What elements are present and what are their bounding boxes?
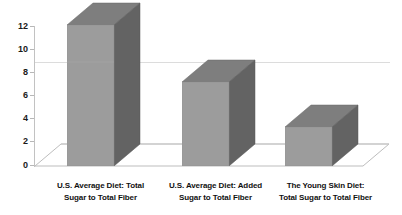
bar-column-1-geometry bbox=[67, 0, 141, 166]
category-label-3-line2: Total Sugar to Total Fiber bbox=[253, 192, 398, 204]
y-axis-label-6: 6 bbox=[6, 91, 28, 100]
category-label-3: The Young Skin Diet: Total Sugar to Tota… bbox=[253, 180, 398, 203]
y-axis-label-0: 0 bbox=[6, 161, 28, 170]
bar-column-1 bbox=[67, 0, 114, 166]
x-axis-category-labels: U.S. Average Diet: Total Sugar to Total … bbox=[0, 180, 402, 215]
y-axis-label-8: 8 bbox=[6, 68, 28, 77]
y-axis-label-10: 10 bbox=[6, 45, 28, 54]
bar-column-3-geometry bbox=[285, 0, 359, 166]
bar-chart: 12 10 8 6 4 2 0 bbox=[0, 0, 402, 215]
bar-column-2 bbox=[182, 0, 229, 166]
y-axis-label-12: 12 bbox=[6, 22, 28, 31]
y-axis-label-4: 4 bbox=[6, 114, 28, 123]
y-axis-line bbox=[34, 26, 35, 167]
bar-column-3 bbox=[285, 0, 332, 166]
bar-column-2-geometry bbox=[182, 0, 256, 166]
y-axis-label-2: 2 bbox=[6, 137, 28, 146]
category-label-3-line1: The Young Skin Diet: bbox=[253, 180, 398, 192]
